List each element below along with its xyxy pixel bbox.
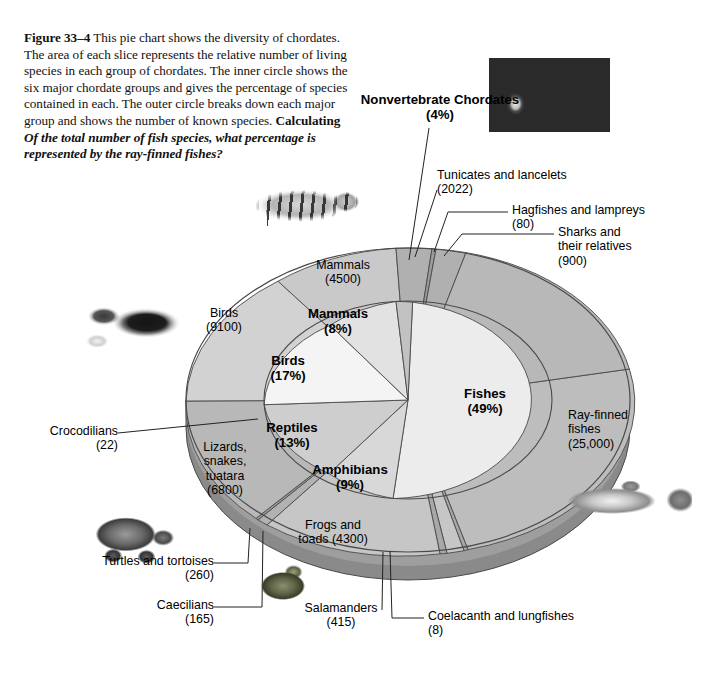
inner-label-nonvertebrate-name: Nonvertebrate Chordates [361,92,519,107]
inner-label-reptiles-name: Reptiles [266,420,317,435]
inner-label-birds: Birds(17%) [248,353,328,384]
outer-label-ray-finned-fishes: Ray-finned fishes (25,000) [568,408,658,451]
fish-photo [546,475,692,527]
inner-label-amphibians: Amphibians(9%) [290,462,410,493]
leader-turtles [214,528,250,563]
callout-tunicates-lancelets: Tunicates and lancelets (2022) [437,168,617,197]
callout-coelacanth-lungfishes: Coelacanth and lungfishes (8) [428,609,628,638]
outer-label-lizards-snakes-tuatara: Lizards, snakes, tuatara (6800) [186,440,264,498]
callout-caecilians: Caecilians (165) [104,598,214,627]
inner-label-nonvertebrate-chordates: Nonvertebrate Chordates(4%) [335,92,545,123]
figure-canvas: Figure 33–4 This pie chart shows the div… [0,0,709,678]
inner-label-mammals-name: Mammals [308,306,368,321]
outer-label-frogs-toads: Frogs and toads (4300) [281,518,385,547]
inner-label-birds-pct: (17%) [270,368,305,383]
inner-label-mammals-pct: (8%) [324,321,352,336]
inner-label-mammals: Mammals(8%) [288,306,388,337]
tiger-photo [248,176,362,244]
callout-salamanders: Salamanders (415) [286,601,396,630]
callout-crocodilians: Crocodilians (22) [8,424,118,453]
inner-label-amphibians-name: Amphibians [312,462,387,477]
leader-hagfishes [434,212,508,252]
inner-label-nonvertebrate-pct: (4%) [426,107,454,122]
outer-label-mammals: Mammals (4500) [290,258,396,287]
leader-nonvertebrate [409,128,429,260]
inner-label-fishes-pct: (49%) [467,401,502,416]
inner-label-birds-name: Birds [271,353,305,368]
callout-turtles-tortoises: Turtles and tortoises (260) [54,554,214,583]
eagle-photo [80,285,188,363]
frog-photo [250,557,316,607]
inner-label-amphibians-pct: (9%) [336,477,364,492]
inner-label-reptiles-pct: (13%) [274,435,309,450]
outer-label-birds: Birds (9100) [184,306,264,335]
inner-label-fishes-name: Fishes [464,386,506,401]
callout-sharks-relatives: Sharks and their relatives (900) [558,225,698,268]
inner-label-fishes: Fishes(49%) [440,386,530,417]
